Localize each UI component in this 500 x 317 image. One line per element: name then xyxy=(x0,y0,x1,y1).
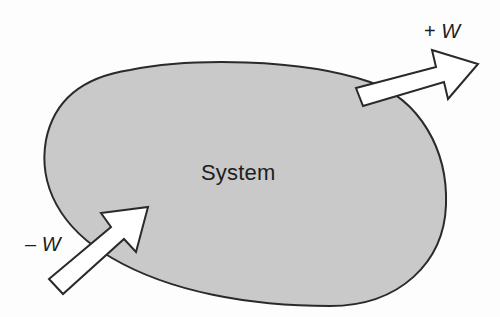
negative-sign: – xyxy=(25,233,36,255)
system-label: System xyxy=(201,160,276,186)
outward-work-arrow xyxy=(356,50,478,106)
work-symbol: W xyxy=(441,20,460,42)
positive-sign: + xyxy=(424,20,436,42)
arrow-out-shape xyxy=(356,50,478,106)
diagram-canvas: System + W – W xyxy=(0,0,500,317)
negative-work-label: – W xyxy=(25,233,61,256)
positive-work-label: + W xyxy=(424,20,460,43)
diagram-svg xyxy=(0,0,500,317)
work-symbol: W xyxy=(42,233,61,255)
